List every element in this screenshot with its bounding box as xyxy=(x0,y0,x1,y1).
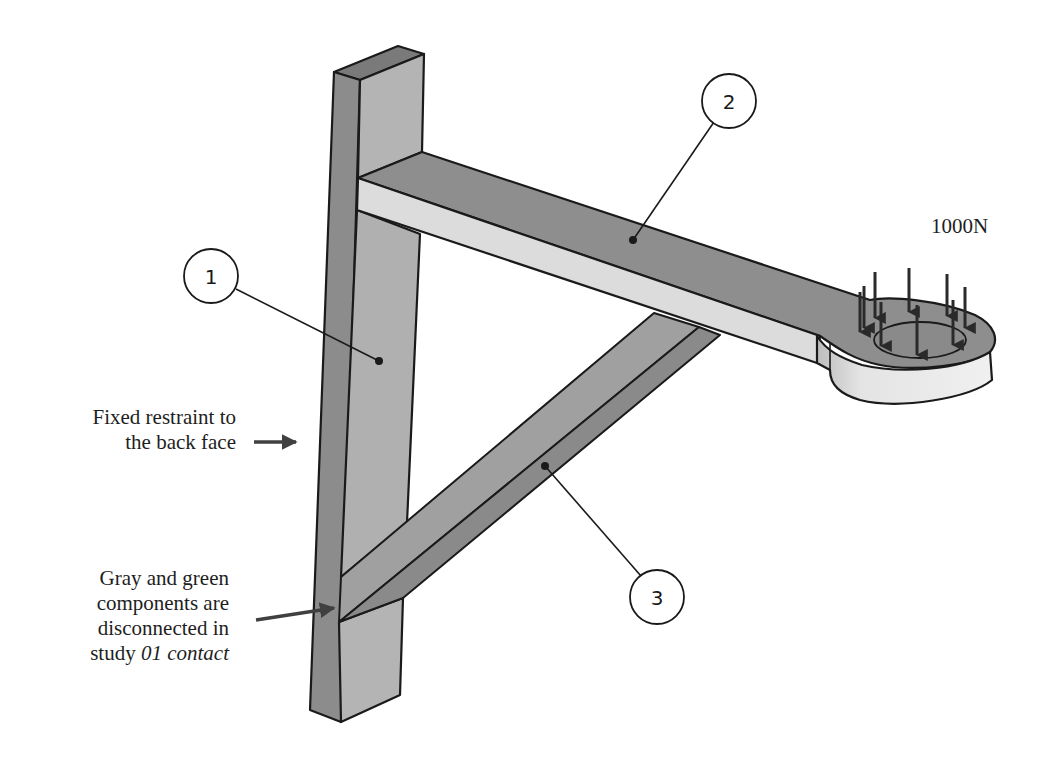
annotation-line: Gray and green xyxy=(90,566,229,591)
annotation-line: Fixed restraint to xyxy=(93,405,236,430)
callout-3: 3 xyxy=(541,462,684,624)
load-label: 1000N xyxy=(931,214,988,239)
callout-2: 2 xyxy=(629,74,756,244)
study-name: 01 contact xyxy=(141,641,229,665)
fixed-restraint-annotation: Fixed restraint to the back face xyxy=(93,405,236,455)
callout-number: 3 xyxy=(651,586,664,610)
study-prefix: study xyxy=(90,641,141,665)
callout-number: 1 xyxy=(205,265,218,289)
annotation-line: disconnected in xyxy=(90,616,229,641)
annotation-line: the back face xyxy=(93,430,236,455)
disconnected-annotation: Gray and green components are disconnect… xyxy=(90,566,229,666)
callout-number: 2 xyxy=(723,90,736,114)
annotation-line: study 01 contact xyxy=(90,641,229,666)
vertical-post xyxy=(310,46,424,722)
annotation-line: components are xyxy=(90,591,229,616)
